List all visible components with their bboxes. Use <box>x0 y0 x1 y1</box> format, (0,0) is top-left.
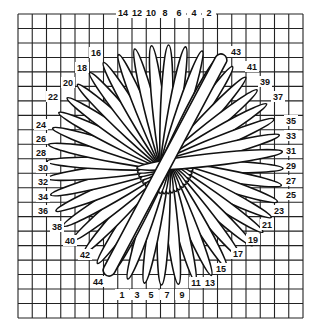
stitch-number: 21 <box>262 220 272 230</box>
stitch-number: 27 <box>286 176 296 186</box>
stitch-number: 16 <box>91 48 101 58</box>
stitch-number: 7 <box>164 290 169 300</box>
stitch-number: 15 <box>216 264 226 274</box>
stitch-number: 17 <box>233 249 243 259</box>
stitch-number: 18 <box>77 63 87 73</box>
stitch-number: 10 <box>146 8 156 18</box>
stitch-number: 20 <box>63 78 73 88</box>
stitch-number: 33 <box>286 131 296 141</box>
stitch-number: 30 <box>38 163 48 173</box>
stitch-number: 8 <box>162 8 167 18</box>
stitch-number: 24 <box>36 120 46 130</box>
stitch-number: 3 <box>134 290 139 300</box>
stitch-number: 29 <box>286 161 296 171</box>
stitch-number: 14 <box>118 8 128 18</box>
stitch-number: 37 <box>273 92 283 102</box>
stitch-number: 23 <box>274 206 284 216</box>
stitch-number: 19 <box>248 235 258 245</box>
stitch-diagram: 1412108642161820222426283032343638404244… <box>0 0 310 333</box>
stitch-number: 9 <box>179 290 184 300</box>
stitch-number: 12 <box>132 8 142 18</box>
stitch-number: 25 <box>286 190 296 200</box>
stitch-number: 38 <box>52 222 62 232</box>
stitch-number: 1 <box>119 290 124 300</box>
stitch-number: 32 <box>38 177 48 187</box>
stitch-number: 34 <box>38 192 48 202</box>
stitch-number: 39 <box>260 77 270 87</box>
stitch-number: 41 <box>247 62 257 72</box>
stitch-number: 6 <box>176 8 181 18</box>
stitch-number: 4 <box>191 8 196 18</box>
stitch-number: 26 <box>36 134 46 144</box>
stitch-number: 44 <box>93 277 103 287</box>
stitch-number: 11 <box>191 278 201 288</box>
stitch-number: 35 <box>286 116 296 126</box>
stitch-number: 28 <box>36 148 46 158</box>
stitch-number: 5 <box>148 290 153 300</box>
stitch-number: 43 <box>231 47 241 57</box>
stitch-number: 42 <box>80 250 90 260</box>
stitch-number: 22 <box>48 92 58 102</box>
stitch-number: 13 <box>205 278 215 288</box>
stitch-number: 31 <box>286 146 296 156</box>
stitch-number: 2 <box>206 8 211 18</box>
stitch-number: 40 <box>65 236 75 246</box>
stitch-number: 36 <box>38 206 48 216</box>
